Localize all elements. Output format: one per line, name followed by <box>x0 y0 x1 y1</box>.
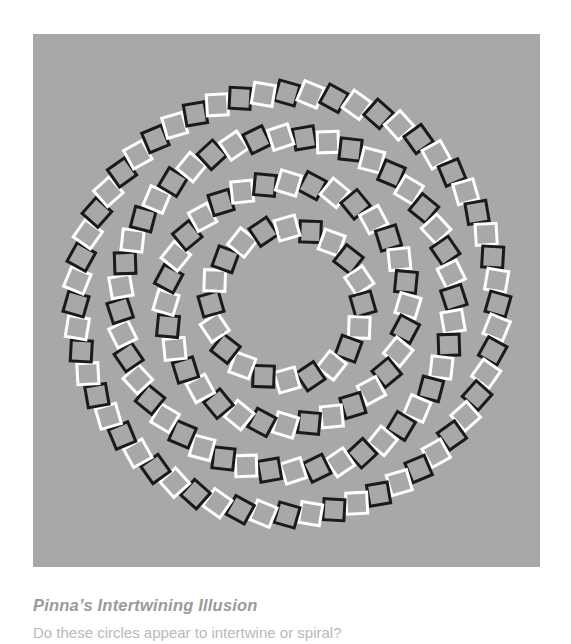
black-square <box>300 221 322 243</box>
white-square <box>121 229 144 252</box>
white-square <box>280 458 307 485</box>
black-square <box>441 284 468 311</box>
white-square <box>384 111 414 141</box>
black-square <box>395 270 418 293</box>
black-square <box>409 194 439 224</box>
white-square <box>320 405 343 428</box>
black-square <box>438 334 460 356</box>
white-square <box>94 177 124 207</box>
figure-title: Pinna’s Intertwining Illusion <box>33 596 553 615</box>
black-square <box>198 291 224 317</box>
white-square <box>235 455 257 477</box>
black-square <box>366 482 390 506</box>
black-square <box>465 200 489 224</box>
black-square <box>485 291 511 317</box>
black-square <box>107 297 134 324</box>
black-square <box>292 126 316 150</box>
black-square <box>298 412 321 435</box>
white-square <box>251 82 275 106</box>
white-square <box>274 215 300 241</box>
black-square <box>323 499 345 521</box>
black-square <box>253 174 276 197</box>
white-square <box>231 180 254 203</box>
black-square <box>141 454 170 483</box>
black-square <box>437 421 466 450</box>
white-square <box>206 94 228 116</box>
black-square <box>114 252 136 274</box>
black-square <box>404 124 433 153</box>
black-square <box>107 158 136 187</box>
black-square <box>253 365 275 387</box>
white-square <box>368 426 398 456</box>
black-square <box>183 102 207 126</box>
white-square <box>421 214 451 244</box>
black-square <box>339 138 362 161</box>
black-square <box>229 87 251 109</box>
black-square <box>204 389 234 419</box>
black-square <box>462 381 492 411</box>
black-square <box>172 221 202 251</box>
illusion-svg <box>33 34 540 567</box>
black-square <box>181 479 211 509</box>
white-square <box>299 502 323 526</box>
black-square <box>482 246 504 268</box>
black-square <box>274 502 300 528</box>
caption-block: Pinna’s Intertwining Illusion Do these c… <box>33 596 553 644</box>
white-square <box>388 248 411 271</box>
black-square <box>135 385 165 415</box>
white-square <box>275 170 301 196</box>
figure-description: Do these circles appear to intertwine or… <box>33 622 553 644</box>
white-square <box>77 363 99 385</box>
white-square <box>485 268 509 292</box>
white-square <box>153 289 179 315</box>
white-square <box>267 124 294 151</box>
white-square <box>475 223 497 245</box>
black-square <box>347 438 377 468</box>
white-square <box>160 468 190 498</box>
black-square <box>257 458 281 482</box>
black-square <box>274 80 300 106</box>
illusion-figure-panel <box>33 34 540 567</box>
white-square <box>395 292 421 318</box>
black-square <box>341 189 371 219</box>
black-square <box>212 447 235 470</box>
black-square <box>63 291 89 317</box>
white-square <box>430 356 453 379</box>
black-square <box>157 315 180 338</box>
white-square <box>451 401 481 431</box>
white-square <box>177 152 207 182</box>
ring-4 <box>198 215 376 393</box>
black-square <box>70 340 92 362</box>
white-square <box>123 364 153 394</box>
black-square <box>372 358 402 388</box>
white-square <box>348 317 370 339</box>
black-square <box>197 140 227 170</box>
ring-3 <box>153 170 421 438</box>
white-square <box>441 309 465 333</box>
white-square <box>272 412 298 438</box>
white-square <box>346 492 368 514</box>
white-square <box>65 316 89 340</box>
black-square <box>364 99 394 129</box>
black-square <box>350 291 376 317</box>
black-square <box>82 198 112 228</box>
white-square <box>163 337 186 360</box>
white-square <box>109 274 133 298</box>
white-square <box>204 270 226 292</box>
black-square <box>85 383 109 407</box>
white-square <box>274 367 300 393</box>
rings-group <box>63 80 511 528</box>
white-square <box>317 131 339 153</box>
ring-2 <box>107 124 467 484</box>
